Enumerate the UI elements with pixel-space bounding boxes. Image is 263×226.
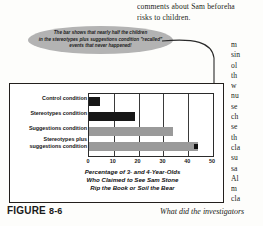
body-text-line: su — [231, 153, 263, 163]
callout-line: The bar shows that nearly half the child… — [39, 30, 162, 36]
x-axis-title: Percentage of 3- and 4-Year-Olds Who Cla… — [49, 168, 216, 193]
category-label-stereotypes-plus-suggestions: Stereotypes plus suggestions condition — [15, 136, 87, 149]
body-text-line: risks to children. — [137, 12, 263, 23]
axis-title-line: Percentage of 3- and 4-Year-Olds — [49, 168, 216, 176]
body-text-line: ch — [231, 112, 263, 122]
category-label-stereotypes: Stereotypes condition — [15, 110, 87, 117]
xtick-50: 50 — [209, 158, 215, 164]
callout-bubble: The bar shows that nearly half the child… — [28, 26, 173, 54]
body-text-line: m — [231, 40, 263, 50]
category-label-line: Suggestions condition — [15, 125, 87, 132]
xtick-40: 40 — [184, 158, 190, 164]
caption-right-text: What did the investigators — [160, 207, 244, 216]
xtick-0: 0 — [87, 158, 90, 164]
body-text-line: Al — [231, 174, 263, 184]
category-label-control: Control condition — [15, 95, 87, 102]
category-label-line: Control condition — [15, 95, 87, 102]
bar-chart: Control condition Stereotypes condition … — [9, 83, 222, 201]
body-text-line: w — [231, 81, 263, 91]
body-text-line: comments about Sam beforeha — [137, 1, 263, 12]
body-text-line: m — [231, 184, 263, 194]
body-text-right: m sin ol th w nu se ch se th cla su sa A… — [231, 40, 263, 205]
plot-area — [88, 93, 214, 157]
body-text-top: comments about Sam beforeha risks to chi… — [137, 1, 263, 23]
xtick-20: 20 — [135, 158, 141, 164]
xtick-10: 10 — [110, 158, 116, 164]
xtick-30: 30 — [159, 158, 165, 164]
body-text-line: se — [231, 122, 263, 132]
axis-title-line: Who Claimed to See Sam Stone — [49, 176, 216, 184]
body-text-line: ol — [231, 61, 263, 71]
body-text-line: th — [231, 133, 263, 143]
figure-caption-label: FIGURE 8-6 — [7, 205, 63, 216]
category-label-line: Stereotypes plus — [15, 136, 87, 143]
body-text-line: cla — [231, 194, 263, 204]
figure-number: 8-6 — [49, 206, 63, 216]
callout-line: events that never happened! — [39, 43, 162, 49]
bar-control — [89, 97, 100, 106]
category-label-line: suggestions condition — [15, 143, 87, 150]
callout-target-marker — [194, 144, 198, 149]
figure-word: FIGURE — [7, 205, 46, 216]
body-text-line: th — [231, 71, 263, 81]
axis-title-line: Rip the Book or Soil the Bear — [49, 184, 216, 192]
bar-stereotypes-plus-suggestions — [89, 142, 198, 151]
category-label-line: Stereotypes condition — [15, 110, 87, 117]
category-label-suggestions: Suggestions condition — [15, 125, 87, 132]
body-text-line: cla — [231, 143, 263, 153]
textbook-page: comments about Sam beforeha risks to chi… — [0, 0, 263, 226]
body-text-line: nu — [231, 91, 263, 101]
callout-text: The bar shows that nearly half the child… — [29, 30, 172, 49]
body-text-line: sin — [231, 50, 263, 60]
bar-stereotypes — [89, 112, 135, 121]
body-text-line: sa — [231, 164, 263, 174]
body-text-line: se — [231, 102, 263, 112]
bar-suggestions — [89, 127, 173, 136]
